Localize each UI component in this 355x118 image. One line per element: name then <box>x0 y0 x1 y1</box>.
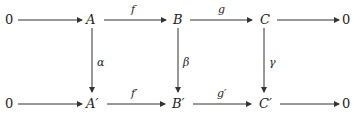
node-B-prime: B′ <box>171 96 185 111</box>
node-C: C <box>260 12 270 27</box>
label-g-prime: g′ <box>217 87 227 100</box>
node-top-0-left: 0 <box>5 12 13 27</box>
node-B: B <box>172 12 183 27</box>
node-C-prime: C′ <box>259 96 272 111</box>
label-g: g <box>218 3 225 16</box>
commutative-diagram: 0 A B C 0 0 A′ B′ C′ 0 f g f′ g′ α β γ <box>0 0 355 118</box>
label-f: f <box>130 3 137 16</box>
node-A-prime: A′ <box>85 96 98 111</box>
node-bottom-0-left: 0 <box>5 96 13 111</box>
label-f-prime: f′ <box>130 87 138 100</box>
node-A: A <box>85 12 95 27</box>
label-gamma: γ <box>269 56 276 69</box>
node-top-0-right: 0 <box>342 12 350 27</box>
node-bottom-0-right: 0 <box>342 96 350 111</box>
label-beta: β <box>182 56 189 69</box>
label-alpha: α <box>97 56 105 69</box>
